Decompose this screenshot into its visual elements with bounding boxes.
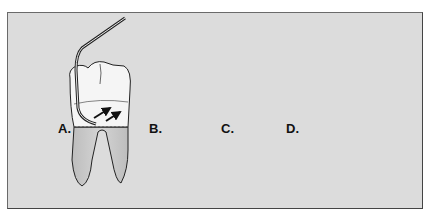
panel-label-d: D.: [286, 121, 299, 136]
panel-label-a: A.: [58, 121, 71, 136]
panel-label-c: C.: [221, 121, 234, 136]
panel-a-molar: [70, 18, 131, 186]
panel-label-b: B.: [149, 121, 162, 136]
dental-instrumentation-illustration: [0, 0, 431, 218]
